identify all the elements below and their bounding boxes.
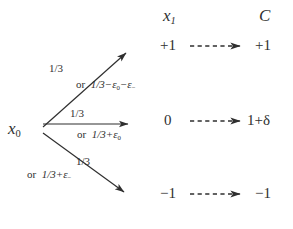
cost-value-zero: 1+δ <box>247 113 270 128</box>
branch-alternative-down-sub1: − <box>68 174 72 181</box>
branch-alternative-up-expr: 1/3−ε <box>91 78 117 90</box>
branch-alternative-straight-expr: 1/3+ε <box>92 128 118 140</box>
branch-alternative-straight: or 1/3+ε0 <box>77 129 121 142</box>
branch-alternative-up-expr2: −ε <box>120 78 132 90</box>
source-node-subscript: 0 <box>16 128 21 139</box>
branch-alternative-straight-sub1: 0 <box>118 134 121 141</box>
cost-value-plus-one: +1 <box>255 38 271 53</box>
branch-alternative-down: or 1/3+ε− <box>27 169 71 182</box>
state-value-zero: 0 <box>164 113 172 128</box>
source-node-label: x0 <box>8 120 21 139</box>
branch-alternative-down-prefix: or <box>27 168 36 180</box>
state-value-minus-one: −1 <box>160 186 176 201</box>
branch-alternative-down-expr: 1/3+ε <box>42 168 68 180</box>
branch-probability-up: 1/3 <box>49 63 63 74</box>
branch-probability-straight: 1/3 <box>70 108 84 119</box>
source-node-base: x <box>8 119 16 138</box>
branch-probability-down: 1/3 <box>76 156 90 167</box>
column-header-state-subscript: 1 <box>171 15 176 26</box>
column-header-state: x1 <box>163 7 176 26</box>
cost-value-minus-one: −1 <box>255 186 271 201</box>
branch-alternative-straight-prefix: or <box>77 128 86 140</box>
branch-alternative-up: or 1/3−ε0−ε− <box>76 79 136 92</box>
branch-alternative-up-sub2: − <box>132 84 136 91</box>
branch-alternative-up-prefix: or <box>76 78 85 90</box>
state-value-plus-one: +1 <box>160 38 176 53</box>
branching-diagram-figure: x1 C x0 1/3 1/3 1/3 or 1/3−ε0−ε− or 1/3+… <box>0 0 293 229</box>
column-header-cost: C <box>259 7 270 24</box>
column-header-state-base: x <box>163 6 171 25</box>
